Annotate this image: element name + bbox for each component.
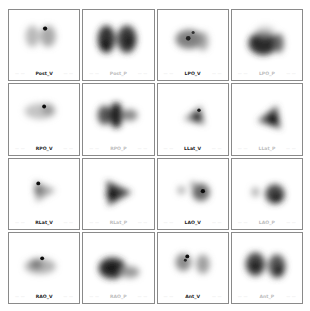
panel-label: LAO_V <box>185 220 201 225</box>
right-tick: — — <box>286 220 296 225</box>
panel-label: LLat_P <box>258 146 275 151</box>
panel-label: RLat_V <box>35 220 53 225</box>
panel-footer: — — LPO_V — — <box>158 70 228 77</box>
panel-label: Post_V <box>35 71 52 76</box>
right-tick: — — <box>63 71 73 76</box>
panel-label: LPO_V <box>185 71 201 76</box>
left-tick: — — <box>164 146 174 151</box>
left-tick: — — <box>15 220 25 225</box>
panel-post-v: — — Post_V — — <box>8 9 80 81</box>
panel-post-p: — — Post_P — — <box>82 9 154 81</box>
panel-footer: — — Post_P — — <box>83 70 153 77</box>
scan-grid: — — Post_V — — — — Post_P — — <box>8 9 303 304</box>
left-tick: — — <box>15 294 25 299</box>
left-tick: — — <box>164 220 174 225</box>
left-tick: — — <box>238 294 248 299</box>
panel-footer: — — LLat_V — — <box>158 145 228 152</box>
left-tick: — — <box>89 220 99 225</box>
panel-footer: — — LAO_P — — <box>232 219 302 226</box>
panel-footer: — — RLat_P — — <box>83 219 153 226</box>
right-tick: — — <box>286 146 296 151</box>
panel-label: Ant_V <box>185 294 200 299</box>
left-tick: — — <box>238 220 248 225</box>
right-tick: — — <box>138 71 148 76</box>
panel-rao-v: — — RAO_V — — <box>8 232 80 304</box>
panel-lao-p: — — LAO_P — — <box>231 158 303 230</box>
right-tick: — — <box>63 220 73 225</box>
panel-llat-v: — — LLat_V — — <box>157 83 229 155</box>
left-tick: — — <box>89 294 99 299</box>
right-tick: — — <box>286 294 296 299</box>
panel-footer: — — RAO_P — — <box>83 293 153 300</box>
panel-label: Ant_P <box>260 294 275 299</box>
panel-ant-v: — — Ant_V — — <box>157 232 229 304</box>
right-tick: — — <box>286 71 296 76</box>
panel-lpo-v: — — LPO_V — — <box>157 9 229 81</box>
panel-footer: — — RLat_V — — <box>9 219 79 226</box>
left-tick: — — <box>238 71 248 76</box>
left-tick: — — <box>15 71 25 76</box>
panel-footer: — — RAO_V — — <box>9 293 79 300</box>
right-tick: — — <box>138 146 148 151</box>
panel-ant-p: — — Ant_P — — <box>231 232 303 304</box>
panel-rpo-p: — — RPO_P — — <box>82 83 154 155</box>
panel-label: RAO_V <box>36 294 53 299</box>
panel-label: RAO_P <box>110 294 127 299</box>
panel-lpo-p: — — LPO_P — — <box>231 9 303 81</box>
panel-rlat-v: — — RLat_V — — <box>8 158 80 230</box>
panel-footer: — — Ant_V — — <box>158 293 228 300</box>
panel-rao-p: — — RAO_P — — <box>82 232 154 304</box>
right-tick: — — <box>138 220 148 225</box>
panel-footer: — — LAO_V — — <box>158 219 228 226</box>
panel-label: LPO_P <box>259 71 275 76</box>
panel-label: Post_P <box>110 71 127 76</box>
right-tick: — — <box>138 294 148 299</box>
left-tick: — — <box>164 294 174 299</box>
right-tick: — — <box>212 294 222 299</box>
right-tick: — — <box>63 294 73 299</box>
panel-footer: — — LPO_P — — <box>232 70 302 77</box>
panel-label: RPO_P <box>110 146 126 151</box>
panel-label: LLat_V <box>184 146 201 151</box>
panel-label: RPO_V <box>36 146 53 151</box>
right-tick: — — <box>212 146 222 151</box>
right-tick: — — <box>63 146 73 151</box>
left-tick: — — <box>164 71 174 76</box>
panel-footer: — — RPO_P — — <box>83 145 153 152</box>
left-tick: — — <box>89 71 99 76</box>
panel-rpo-v: — — RPO_V — — <box>8 83 80 155</box>
panel-label: RLat_P <box>110 220 127 225</box>
panel-footer: — — LLat_P — — <box>232 145 302 152</box>
panel-lao-v: — — LAO_V — — <box>157 158 229 230</box>
panel-footer: — — Ant_P — — <box>232 293 302 300</box>
left-tick: — — <box>238 146 248 151</box>
panel-footer: — — RPO_V — — <box>9 145 79 152</box>
panel-footer: — — Post_V — — <box>9 70 79 77</box>
panel-label: LAO_P <box>259 220 275 225</box>
left-tick: — — <box>15 146 25 151</box>
right-tick: — — <box>212 71 222 76</box>
left-tick: — — <box>89 146 99 151</box>
panel-llat-p: — — LLat_P — — <box>231 83 303 155</box>
right-tick: — — <box>212 220 222 225</box>
panel-rlat-p: — — RLat_P — — <box>82 158 154 230</box>
